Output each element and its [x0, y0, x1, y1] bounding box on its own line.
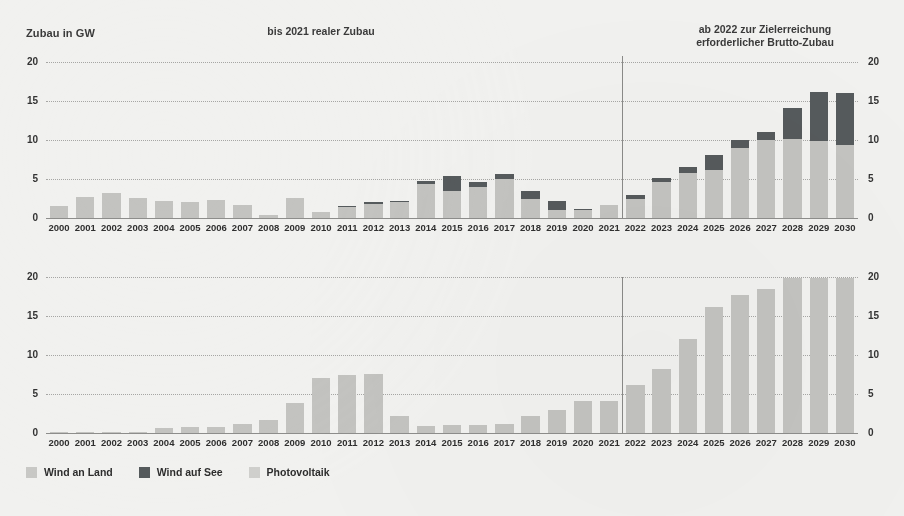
bar-column	[521, 277, 539, 433]
bar-column	[233, 62, 251, 218]
bar-segment	[757, 132, 775, 140]
legend-item-see: Wind auf See	[139, 466, 223, 478]
bar-segment	[390, 202, 408, 218]
x-axis-tick-label: 2030	[828, 437, 862, 448]
bar-column	[390, 277, 408, 433]
bar-segment	[129, 432, 147, 433]
bar-segment	[600, 205, 618, 218]
bar-column	[495, 62, 513, 218]
axis-baseline	[46, 218, 858, 219]
bar-column	[312, 62, 330, 218]
y-axis-tick-label: 10	[868, 350, 898, 360]
bar-segment	[705, 155, 723, 171]
y-axis-tick-label: 5	[8, 389, 38, 399]
bar-column	[679, 62, 697, 218]
bar-segment	[521, 191, 539, 199]
bar-segment	[338, 375, 356, 434]
bar-segment	[50, 432, 68, 433]
bar-column	[600, 277, 618, 433]
bar-segment	[181, 427, 199, 433]
bar-column	[129, 62, 147, 218]
axis-baseline	[46, 433, 858, 434]
bar-segment	[338, 207, 356, 218]
y-axis-tick-label: 5	[868, 174, 898, 184]
bar-segment	[548, 410, 566, 433]
bar-segment	[469, 187, 487, 218]
bar-column	[129, 277, 147, 433]
bar-segment	[495, 174, 513, 179]
bar-column	[705, 62, 723, 218]
y-axis-tick-label: 0	[8, 428, 38, 438]
y-axis-tick-label: 10	[868, 135, 898, 145]
bar-segment	[705, 170, 723, 218]
bar-segment	[364, 374, 382, 433]
bar-segment	[443, 191, 461, 218]
bar-column	[783, 277, 801, 433]
bar-segment	[521, 199, 539, 218]
chart-legend: Wind an LandWind auf SeePhotovoltaik	[26, 466, 330, 478]
bar-column	[207, 277, 225, 433]
bar-segment	[129, 198, 147, 218]
legend-swatch-icon	[26, 467, 37, 478]
bar-column	[652, 62, 670, 218]
bar-column	[443, 62, 461, 218]
bar-column	[155, 62, 173, 218]
pv-chart-bars	[46, 277, 858, 433]
bar-segment	[233, 205, 251, 218]
bar-column	[286, 62, 304, 218]
right-section-header-line1: ab 2022 zur Zielerreichung	[645, 23, 885, 36]
bar-segment	[76, 432, 94, 433]
bar-segment	[259, 215, 277, 218]
y-axis-tick-label: 10	[8, 135, 38, 145]
legend-label: Wind an Land	[44, 466, 113, 478]
y-axis-tick-label: 15	[8, 96, 38, 106]
y-axis-tick-label: 20	[8, 57, 38, 67]
bar-segment	[312, 378, 330, 433]
bar-segment	[600, 401, 618, 433]
y-axis-tick-label: 20	[8, 272, 38, 282]
bar-segment	[731, 140, 749, 148]
bar-segment	[102, 432, 120, 433]
bar-segment	[783, 278, 801, 433]
bar-column	[181, 62, 199, 218]
bar-segment	[469, 182, 487, 187]
figure-root: Zubau in GW bis 2021 realer Zubau ab 202…	[0, 0, 904, 516]
bar-segment	[364, 204, 382, 218]
bar-column	[600, 62, 618, 218]
bar-segment	[338, 206, 356, 208]
y-axis-tick-label: 20	[868, 272, 898, 282]
pv-chart-projection-divider	[622, 277, 623, 433]
bar-segment	[259, 420, 277, 433]
legend-item-pv: Photovoltaik	[249, 466, 330, 478]
bar-segment	[652, 178, 670, 182]
bar-segment	[652, 369, 670, 433]
bar-column	[207, 62, 225, 218]
bar-column	[783, 62, 801, 218]
bar-segment	[207, 200, 225, 218]
bar-column	[679, 277, 697, 433]
y-axis-tick-label: 15	[8, 311, 38, 321]
bar-segment	[836, 93, 854, 144]
bar-segment	[810, 92, 828, 140]
bar-column	[810, 277, 828, 433]
bar-column	[102, 277, 120, 433]
bar-column	[364, 62, 382, 218]
bar-segment	[679, 173, 697, 218]
bar-column	[364, 277, 382, 433]
bar-segment	[417, 181, 435, 183]
bar-segment	[705, 307, 723, 433]
bar-segment	[783, 108, 801, 139]
bar-segment	[495, 179, 513, 218]
bar-column	[574, 277, 592, 433]
bar-column	[443, 277, 461, 433]
bar-column	[259, 277, 277, 433]
bar-column	[390, 62, 408, 218]
bar-column	[836, 277, 854, 433]
bar-column	[181, 277, 199, 433]
bar-column	[102, 62, 120, 218]
wind-chart-bars	[46, 62, 858, 218]
bar-segment	[626, 199, 644, 218]
bar-segment	[102, 193, 120, 218]
bar-column	[417, 277, 435, 433]
bar-segment	[626, 385, 644, 433]
